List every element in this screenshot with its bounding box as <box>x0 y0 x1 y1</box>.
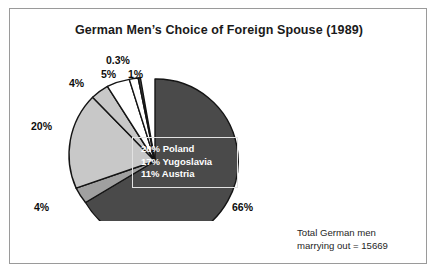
slice-label-66: 66% <box>232 201 253 213</box>
pie-svg <box>24 41 294 221</box>
slice-label-4-bottom: 4% <box>34 201 49 213</box>
legend-item-poland: 20% Poland <box>141 143 229 156</box>
total-note-line-2: marrying out = 15669 <box>297 240 388 253</box>
slice-label-0-3: 0.3% <box>106 54 130 66</box>
slice-label-5: 5% <box>101 68 116 80</box>
figure-frame: German Men’s Choice of Foreign Spouse (1… <box>9 8 427 264</box>
pie-chart: 0.3% 5% 1% 4% 20% 4% 66% 20% Poland 17% … <box>10 9 428 265</box>
total-note: Total German men marrying out = 15669 <box>297 227 388 252</box>
slice-label-1: 1% <box>128 68 143 80</box>
slice-label-20: 20% <box>31 120 52 132</box>
legend-item-austria: 11% Austria <box>141 168 229 181</box>
legend-item-yugoslavia: 17% Yugoslavia <box>141 156 229 169</box>
total-note-line-1: Total German men <box>297 227 388 240</box>
legend: 20% Poland 17% Yugoslavia 11% Austria <box>132 137 238 188</box>
slice-label-4-top: 4% <box>69 77 84 89</box>
